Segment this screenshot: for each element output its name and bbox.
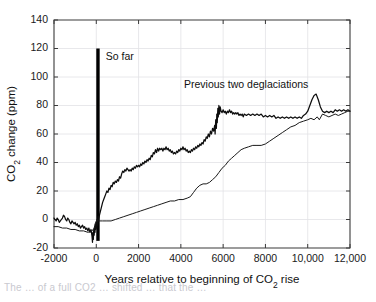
y-tick-label: 40: [36, 155, 48, 167]
x-tick-label: 8000: [254, 252, 278, 264]
x-tick-label: 10,000: [292, 252, 324, 264]
annotation-so-far: So far: [106, 50, 135, 62]
x-tick-label: 2000: [127, 252, 151, 264]
x-tick-label: 12,000: [334, 252, 366, 264]
co2-change-chart-figure: -20020406080100120140 -20000200040006000…: [0, 0, 376, 302]
x-axis-tick-labels: -20000200040006000800010,00012,000: [41, 252, 367, 264]
x-tick-label: 6000: [211, 252, 235, 264]
y-tick-label: 20: [36, 184, 48, 196]
y-tick-label: 0: [42, 212, 48, 224]
y-tick-label: 140: [30, 13, 48, 25]
x-tick-label: -2000: [41, 252, 68, 264]
page-caption-strip: The … of a full CO2 … shifted … that the…: [0, 283, 376, 302]
y-tick-label: 120: [30, 41, 48, 53]
x-tick-label: 0: [93, 252, 99, 264]
y-tick-label: 60: [36, 127, 48, 139]
y-tick-label: 100: [30, 70, 48, 82]
y-tick-label: -20: [33, 241, 48, 253]
chart-canvas: -20020406080100120140 -20000200040006000…: [0, 0, 376, 302]
caption-text: The … of a full CO2 … shifted … that the…: [4, 283, 207, 293]
x-tick-label: 4000: [169, 252, 193, 264]
y-axis-title: CO2 change (ppm): [5, 86, 22, 182]
annotation-previous-two-deglaciations: Previous two deglaciations: [184, 78, 308, 90]
chart-annotations: So farPrevious two deglaciations: [106, 50, 309, 91]
y-tick-label: 80: [36, 98, 48, 110]
y-axis-tick-labels: -20020406080100120140: [30, 13, 48, 253]
